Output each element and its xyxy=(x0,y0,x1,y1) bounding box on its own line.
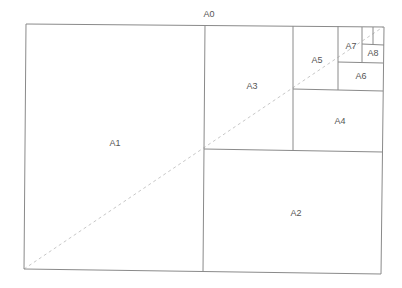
label-a6: A6 xyxy=(355,71,366,81)
label-a7: A7 xyxy=(345,41,356,51)
divider-a8-a9 xyxy=(362,44,384,45)
paper-sizes-diagram xyxy=(0,0,402,288)
label-a1: A1 xyxy=(109,138,120,148)
label-a3: A3 xyxy=(246,81,257,91)
label-a4: A4 xyxy=(334,116,345,126)
a0-title: A0 xyxy=(203,9,214,19)
divider-a6-a7 xyxy=(338,62,383,63)
label-a5: A5 xyxy=(311,55,322,65)
label-a2: A2 xyxy=(290,208,301,218)
label-a8: A8 xyxy=(367,48,378,58)
